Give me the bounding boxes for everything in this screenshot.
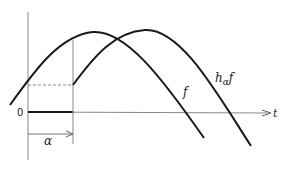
curve-h-alpha-f-label-main: h bbox=[215, 71, 223, 85]
curve-h-alpha-f-label-tail: f bbox=[228, 71, 236, 85]
curve-f-label: f bbox=[182, 85, 190, 99]
alpha-label: α bbox=[44, 134, 52, 148]
curve-h-alpha-f-label: hαf bbox=[215, 71, 236, 87]
curve-h-alpha-f bbox=[73, 30, 251, 146]
diagram-canvas: t 0 α f hαf bbox=[0, 0, 282, 172]
t-axis-label: t bbox=[273, 107, 278, 120]
origin-label: 0 bbox=[17, 107, 23, 118]
